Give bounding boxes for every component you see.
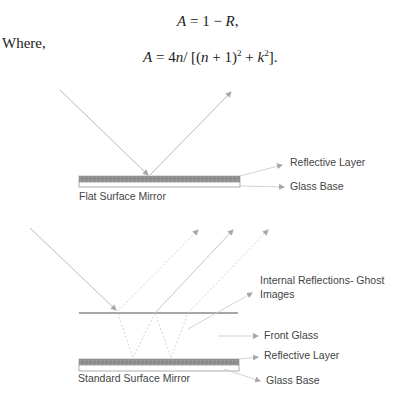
- glass-base-shape: [79, 182, 240, 187]
- caption-flat-surface-mirror: Flat Surface Mirror: [79, 190, 166, 202]
- internal-ray: [118, 313, 133, 358]
- reflective-layer-shape: [79, 359, 239, 365]
- incident-ray: [60, 90, 148, 175]
- ghost-ray-3: [188, 230, 268, 313]
- glass-base-shape: [79, 365, 239, 371]
- leader-glass-base: [224, 369, 260, 381]
- reflected-ray: [150, 92, 231, 175]
- mirror-diagrams: [0, 0, 394, 401]
- ghost-ray-1: [118, 230, 198, 311]
- caption-standard-surface-mirror: Standard Surface Mirror: [78, 372, 190, 384]
- standard-mirror-diagram: [30, 228, 268, 381]
- label-internal-reflections-2: Images: [260, 288, 294, 300]
- label-glass-base-bottom: Glass Base: [266, 374, 320, 386]
- label-front-glass: Front Glass: [264, 329, 318, 341]
- internal-ray: [171, 313, 188, 358]
- leader-reflective-layer: [240, 165, 282, 176]
- internal-ray: [133, 313, 155, 358]
- internal-ray: [155, 313, 171, 358]
- leader-glass-base: [240, 186, 284, 187]
- label-internal-reflections: Internal Reflections- Ghost: [260, 274, 384, 286]
- incident-ray: [30, 228, 116, 310]
- leader-reflective-layer: [239, 357, 258, 359]
- reflective-layer-shape: [79, 176, 240, 182]
- ghost-ray-2: [155, 230, 233, 313]
- label-glass-base-top: Glass Base: [290, 180, 344, 192]
- flat-mirror-diagram: [60, 90, 284, 187]
- label-reflective-layer-bottom: Reflective Layer: [264, 349, 339, 361]
- label-reflective-layer-top: Reflective Layer: [290, 156, 365, 168]
- leader-internal-reflections: [188, 293, 252, 329]
